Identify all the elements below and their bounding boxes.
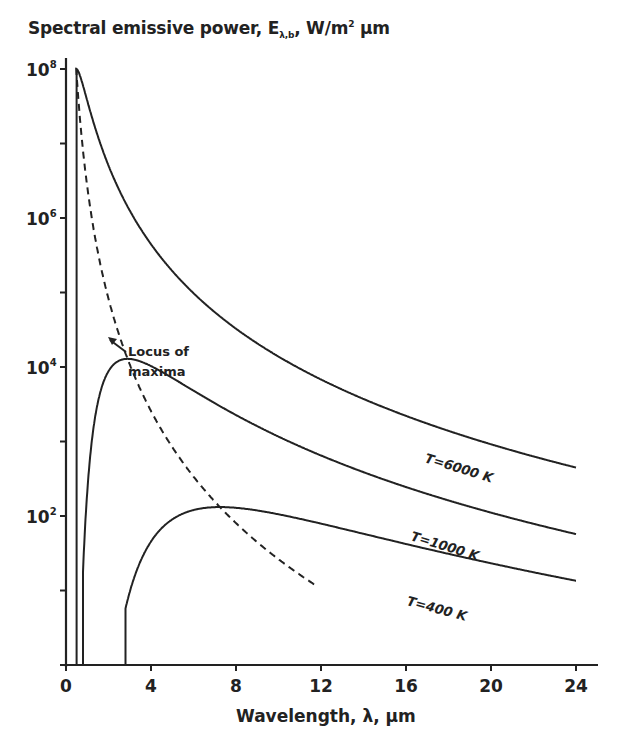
x-tick-label: 8 — [230, 676, 242, 696]
y-tick-label: 106 — [26, 208, 57, 229]
label-t6000: T=6000 K — [423, 451, 496, 486]
y-tick-label: 102 — [26, 506, 57, 527]
plot-area: 04812162024108106104102 T=6000 K T=1000 … — [0, 0, 624, 748]
x-axis-label: Wavelength, λ, μm — [236, 706, 416, 726]
x-tick-label: 20 — [479, 676, 503, 696]
locus-label-line1: Locus of — [128, 344, 189, 359]
label-t400: T=400 K — [405, 593, 469, 624]
y-tick-label: 108 — [26, 59, 57, 80]
locus-label-line2: maxima — [128, 364, 185, 379]
label-t1000: T=1000 K — [409, 529, 482, 564]
curve-labels: T=6000 K T=1000 K T=400 K Locus of maxim… — [108, 337, 496, 624]
series-t-400-k — [126, 507, 577, 665]
y-tick-label: 104 — [26, 357, 57, 378]
x-tick-label: 0 — [60, 676, 72, 696]
x-tick-label: 16 — [394, 676, 418, 696]
axes: 04812162024108106104102 — [26, 58, 598, 696]
x-tick-label: 12 — [309, 676, 333, 696]
x-tick-label: 4 — [145, 676, 157, 696]
x-tick-label: 24 — [564, 676, 588, 696]
series-t-1000-k — [83, 359, 576, 665]
